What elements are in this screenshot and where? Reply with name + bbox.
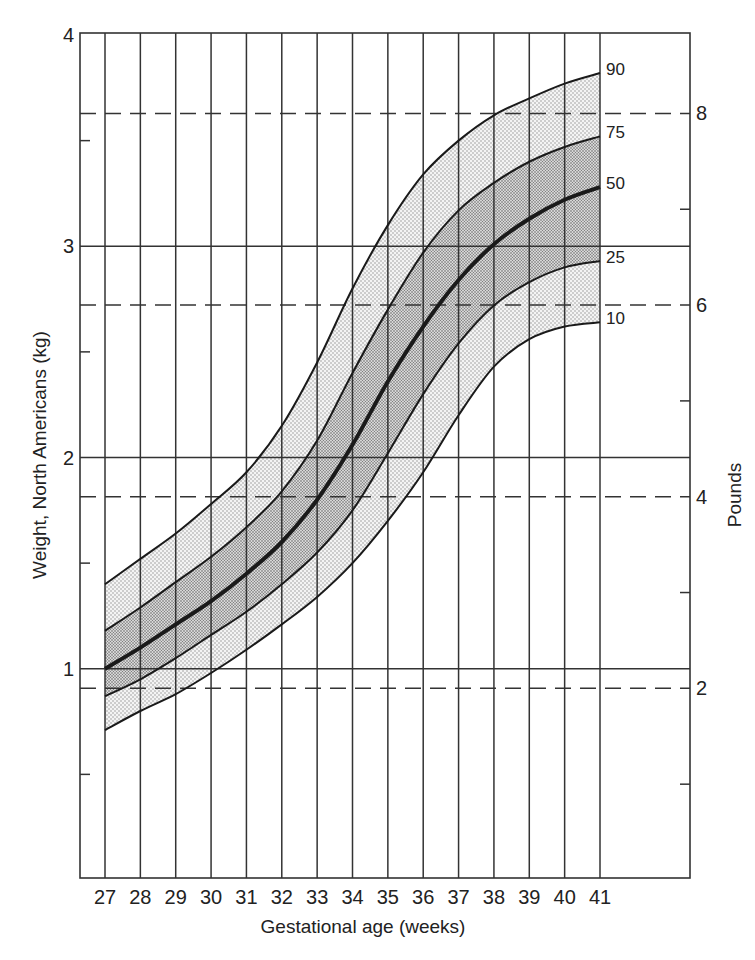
x-tick-label: 37 <box>447 886 469 908</box>
x-tick-label: 34 <box>341 886 363 908</box>
y-tick-label-lb: 8 <box>696 102 707 124</box>
percentile-label-90: 90 <box>606 60 625 79</box>
x-tick-label: 30 <box>200 886 222 908</box>
x-tick-label: 35 <box>377 886 399 908</box>
growth-chart: 2728293031323334353637383940411234246890… <box>0 0 755 960</box>
y-tick-label-kg: 4 <box>63 24 74 46</box>
x-tick-label: 29 <box>165 886 187 908</box>
y-tick-label-lb: 6 <box>696 294 707 316</box>
percentile-label-10: 10 <box>606 309 625 328</box>
y-tick-label-kg: 2 <box>63 447 74 469</box>
percentile-label-50: 50 <box>606 174 625 193</box>
x-tick-label: 33 <box>306 886 328 908</box>
x-tick-label: 31 <box>235 886 257 908</box>
x-tick-label: 38 <box>483 886 505 908</box>
y-tick-label-lb: 2 <box>696 677 707 699</box>
percentile-label-25: 25 <box>606 248 625 267</box>
y-axis-title-right: Pounds <box>724 463 745 527</box>
x-tick-label: 36 <box>412 886 434 908</box>
x-tick-label: 40 <box>554 886 576 908</box>
x-tick-label: 28 <box>129 886 151 908</box>
y-tick-label-kg: 3 <box>63 235 74 257</box>
y-tick-label-kg: 1 <box>63 658 74 680</box>
x-tick-label: 41 <box>589 886 611 908</box>
x-tick-label: 39 <box>518 886 540 908</box>
percentile-label-75: 75 <box>606 123 625 142</box>
x-axis-title: Gestational age (weeks) <box>261 916 466 937</box>
y-axis-title-left: Weight, North Americans (kg) <box>29 331 50 579</box>
y-tick-label-lb: 4 <box>696 486 707 508</box>
x-tick-label: 27 <box>94 886 116 908</box>
x-tick-label: 32 <box>271 886 293 908</box>
